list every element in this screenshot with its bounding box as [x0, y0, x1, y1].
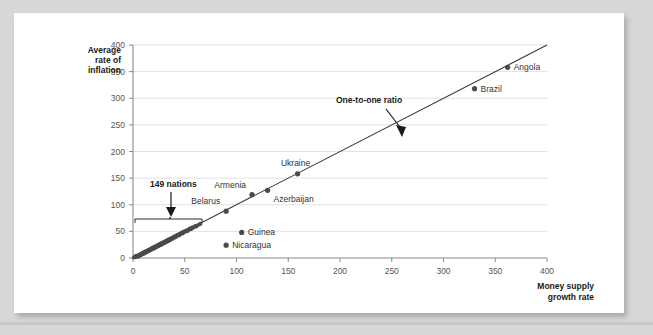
point-label-azerbaijan: Azerbaijan	[274, 194, 314, 204]
x-tick-label: 300	[436, 266, 450, 276]
x-tick-label: 50	[180, 266, 190, 276]
x-tick-label: 350	[488, 266, 502, 276]
point-label-nicaragua: Nicaragua	[232, 240, 271, 250]
data-point-angola	[505, 65, 510, 70]
data-point-belarus	[224, 209, 229, 214]
annotation-149-brace	[135, 217, 202, 223]
point-label-armenia: Armenia	[214, 180, 246, 190]
y-tick-label: 100	[111, 200, 125, 210]
x-tick-label: 0	[131, 266, 136, 276]
point-label-brazil: Brazil	[481, 84, 502, 94]
page-bottom-rule	[0, 322, 653, 325]
x-axis-title-line2: growth rate	[548, 292, 595, 302]
y-axis-title-line1: Average	[88, 45, 122, 55]
x-tick-label: 200	[333, 266, 347, 276]
point-label-guinea: Guinea	[248, 227, 276, 237]
chart-plot-area: 050100150200250300350400 050100150200250…	[14, 13, 624, 313]
y-axis-title-line2: rate of	[95, 55, 121, 65]
y-tick-label: 250	[111, 120, 125, 130]
x-axis-ticks: 050100150200250300350400	[131, 258, 555, 276]
data-point-nicaragua	[224, 243, 229, 248]
x-axis-title-line1: Money supply	[537, 281, 594, 291]
annotation-one-to-one-arrow-head	[396, 125, 406, 137]
y-tick-label: 300	[111, 93, 125, 103]
data-point-guinea	[239, 230, 244, 235]
labeled-points-group: AngolaBrazilUkraineAzerbaijanArmeniaBela…	[191, 62, 540, 250]
point-label-belarus: Belarus	[191, 196, 220, 206]
inflation-vs-money-supply-scatter: 050100150200250300350400 050100150200250…	[14, 13, 624, 313]
y-axis-title-line3: inflation	[88, 65, 121, 75]
x-tick-label: 400	[540, 266, 554, 276]
figure-panel: 050100150200250300350400 050100150200250…	[14, 13, 624, 313]
x-tick-label: 250	[385, 266, 399, 276]
cluster-points-group	[132, 222, 202, 260]
data-point-azerbaijan	[265, 188, 270, 193]
y-tick-label: 0	[120, 253, 125, 263]
annotation-one-to-one-label: One-to-one ratio	[336, 95, 402, 105]
point-label-angola: Angola	[514, 62, 541, 72]
point-label-ukraine: Ukraine	[281, 158, 311, 168]
annotation-149-arrow-head	[166, 207, 176, 217]
data-point-brazil	[472, 86, 477, 91]
y-tick-label: 200	[111, 147, 125, 157]
data-point-armenia	[249, 192, 254, 197]
y-tick-label: 50	[116, 226, 126, 236]
data-point-ukraine	[295, 171, 300, 176]
x-tick-label: 100	[229, 266, 243, 276]
y-tick-label: 150	[111, 173, 125, 183]
x-tick-label: 150	[281, 266, 295, 276]
page-watermark	[8, 0, 118, 8]
annotation-149-nations-label: 149 nations	[150, 179, 197, 189]
